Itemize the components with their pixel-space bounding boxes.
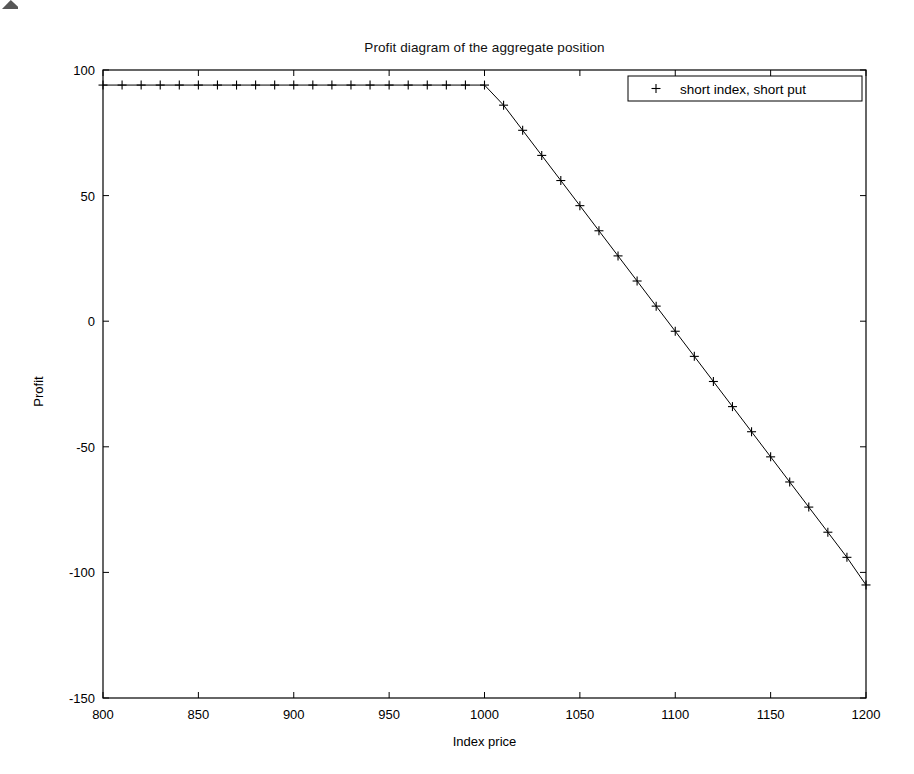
legend-entry-label: short index, short put <box>680 82 806 97</box>
y-tick-label: -100 <box>27 565 95 580</box>
x-tick-label: 900 <box>264 707 324 722</box>
x-tick-label: 1050 <box>550 707 610 722</box>
x-tick-label: 1100 <box>645 707 705 722</box>
data-series-short-index-short-put <box>99 81 871 590</box>
x-tick-label: 1000 <box>455 707 515 722</box>
y-tick-label: -50 <box>27 439 95 454</box>
figure-canvas: Profit diagram of the aggregate position… <box>0 0 914 774</box>
y-tick-label: 100 <box>27 63 95 78</box>
y-tick-label: -150 <box>27 691 95 706</box>
x-tick-label: 950 <box>359 707 419 722</box>
x-tick-label: 850 <box>168 707 228 722</box>
legend-box[interactable]: short index, short put <box>628 76 862 101</box>
x-tick-label: 800 <box>73 707 133 722</box>
x-tick-label: 1200 <box>836 707 896 722</box>
y-tick-label: 50 <box>27 188 95 203</box>
y-tick-label: 0 <box>27 314 95 329</box>
axes-frame <box>103 70 866 698</box>
x-tick-label: 1150 <box>741 707 801 722</box>
plot-area: short index, short put <box>0 0 914 774</box>
axis-ticks <box>103 70 866 698</box>
